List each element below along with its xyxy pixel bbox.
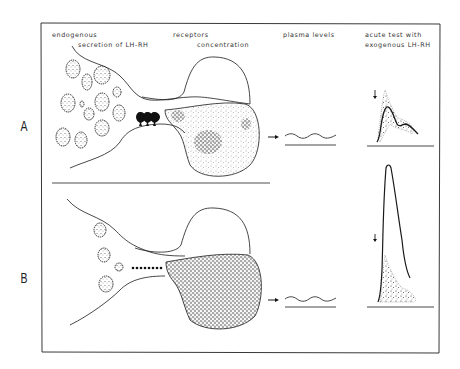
panel-a: [56, 46, 434, 176]
neuron-outline-upper-b: [67, 199, 185, 256]
secretory-cells-a: [56, 60, 125, 148]
label-secretion-of-lhrh: secretion of LH-RH: [78, 41, 148, 49]
plasma-level-wave-b: [285, 297, 336, 302]
down-arrow-icon: [373, 90, 377, 99]
arrow-right-icon: [268, 135, 279, 139]
diagram-canvas: [0, 0, 460, 369]
plasma-level-wave-a: [285, 134, 336, 139]
pituitary-lobe-upper-b: [135, 208, 250, 254]
lhrh-dot: [140, 267, 143, 270]
label-concentration: concentration: [197, 41, 249, 49]
neuron-outline-lower-a: [70, 124, 185, 168]
label-acute-test: acute test with: [365, 31, 422, 39]
receptor-cluster-a-2: [171, 110, 185, 122]
lhrh-diagram-figure: endogenous secretion of LH-RH receptors …: [0, 0, 460, 369]
arrow-right-icon: [268, 298, 279, 302]
label-receptors: receptors: [173, 31, 209, 39]
normal-range-band-b: [380, 255, 416, 302]
label-exogenous-lhrh: exogenous LH-RH: [365, 41, 431, 49]
lhrh-dot: [132, 267, 135, 270]
receptor-bulb-b: [166, 254, 261, 329]
panel-label-a: A: [21, 117, 28, 134]
lhrh-dot: [152, 267, 155, 270]
receptor-cluster-a-1: [194, 130, 222, 154]
receptor-cluster-a-3: [241, 118, 251, 130]
neuron-outline-lower-b: [70, 276, 165, 325]
label-plasma-levels: plasma levels: [283, 31, 335, 39]
lhrh-dot: [160, 267, 163, 270]
lhrh-dot: [148, 267, 151, 270]
panel-b: [67, 165, 434, 329]
lhrh-dots-b: [132, 267, 163, 270]
panel-label-b: B: [21, 269, 28, 286]
lhrh-dot: [156, 267, 159, 270]
down-arrow-icon: [373, 234, 377, 242]
label-endogenous: endogenous: [52, 31, 97, 39]
lhrh-dot: [136, 267, 139, 270]
lhrh-dot: [144, 267, 147, 270]
